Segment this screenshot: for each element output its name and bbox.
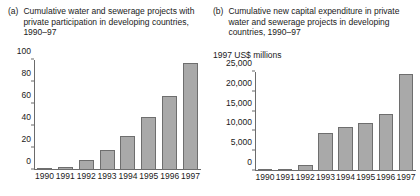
panel-a-bar-1992 — [79, 160, 94, 170]
panel-a-title-block: (a) Cumulative water and sewerage projec… — [8, 6, 204, 38]
panel-b-bar-slot — [255, 72, 275, 171]
panel-b-bar-slot — [396, 72, 416, 171]
panel-b-bar-1991 — [278, 169, 292, 171]
panel-a-bar-slot — [97, 60, 118, 170]
panel-a-bar-slot — [180, 60, 201, 170]
panel-b-plot-area: 05,00010,00015,00020,00025,000 — [255, 72, 416, 171]
panel-a-x-tick-label: 1994 — [118, 171, 139, 182]
panel-a-bar-1997 — [183, 63, 198, 170]
panel-a-bar-1996 — [162, 96, 177, 170]
panel-b-bar-1992 — [298, 165, 312, 171]
panel-a-bar-slot — [118, 60, 139, 170]
panel-a-y-tick-label: 20 — [22, 135, 31, 144]
panel-b-y-tick-label: 25,000 — [226, 59, 252, 68]
panel-a-x-tick-labels: 19901991199219931994199519961997 — [34, 171, 201, 182]
panel-a-bar-slot — [55, 60, 76, 170]
panel-a-bar-1995 — [141, 117, 156, 170]
panel-a: (a) Cumulative water and sewerage projec… — [0, 0, 210, 196]
panel-b-title-block: (b) Cumulative new capital expenditure i… — [213, 6, 418, 38]
panel-b-bar-1997 — [399, 74, 413, 171]
panel-b-title: Cumulative new capital expenditure in pr… — [228, 6, 418, 38]
panel-b-bar-1994 — [338, 127, 352, 171]
panel-a-plot-area: 020406080100 — [34, 60, 201, 170]
panel-b-bar-slot — [356, 72, 376, 171]
panel-b-bar-slot — [295, 72, 315, 171]
panel-a-bar-slot — [76, 60, 97, 170]
panel-b-y-tick-label: 20,000 — [226, 78, 252, 87]
panel-b-bar-slot — [315, 72, 335, 171]
panel-a-bar-slot — [34, 60, 55, 170]
panel-b-tag: (b) — [213, 6, 223, 38]
panel-a-title: Cumulative water and sewerage projects w… — [23, 6, 204, 38]
panel-a-bar-slot — [138, 60, 159, 170]
panel-b-x-tick-label: 1990 — [255, 172, 275, 183]
panel-b-x-tick-label: 1997 — [396, 172, 416, 183]
panel-a-bar-1990 — [37, 168, 52, 170]
panel-b-bar-slot — [275, 72, 295, 171]
panel-b-y-tick-label: 15,000 — [226, 98, 252, 107]
panel-b-x-tick-label: 1991 — [275, 172, 295, 183]
panel-a-x-tick-label: 1997 — [180, 171, 201, 182]
panel-b-bar-1993 — [318, 133, 332, 171]
panel-b-x-tick-label: 1995 — [356, 172, 376, 183]
panel-a-y-tick-label: 60 — [22, 91, 31, 100]
panel-a-y-tick-label: 40 — [22, 113, 31, 122]
panel-b-bar-1990 — [258, 169, 272, 171]
panel-a-x-tick-label: 1992 — [76, 171, 97, 182]
panel-b-y-tick-label: 0 — [247, 158, 252, 167]
panel-b-x-tick-labels: 19901991199219931994199519961997 — [255, 172, 416, 183]
panel-b-x-tick-label: 1993 — [315, 172, 335, 183]
panel-b: (b) Cumulative new capital expenditure i… — [210, 0, 420, 196]
panel-b-x-tick-label: 1996 — [376, 172, 396, 183]
panel-a-y-tick-label: 100 — [17, 47, 31, 56]
panel-b-bar-1995 — [358, 123, 372, 171]
panel-a-bar-1991 — [58, 167, 73, 170]
panel-b-x-tick-label: 1994 — [336, 172, 356, 183]
panel-a-x-tick-label: 1996 — [159, 171, 180, 182]
panel-b-bars — [255, 72, 416, 171]
panel-a-x-tick-label: 1993 — [97, 171, 118, 182]
panel-a-x-tick-label: 1991 — [55, 171, 76, 182]
panel-a-bar-slot — [159, 60, 180, 170]
panel-a-tag: (a) — [8, 6, 18, 38]
panel-b-y-tick-label: 5,000 — [231, 138, 252, 147]
panel-a-bar-1994 — [120, 136, 135, 170]
panel-b-y-tick-label: 10,000 — [226, 118, 252, 127]
panel-b-x-tick-label: 1992 — [295, 172, 315, 183]
panel-b-bar-slot — [376, 72, 396, 171]
panel-b-bar-1996 — [379, 114, 393, 171]
figure-two-panel-bar-charts: (a) Cumulative water and sewerage projec… — [0, 0, 420, 196]
panel-a-y-tick-label: 80 — [22, 69, 31, 78]
panel-a-x-tick-label: 1995 — [138, 171, 159, 182]
panel-a-y-tick-label: 0 — [26, 157, 31, 166]
panel-a-x-tick-label: 1990 — [34, 171, 55, 182]
panel-a-bar-1993 — [100, 150, 115, 170]
panel-b-bar-slot — [336, 72, 356, 171]
panel-a-bars — [34, 60, 201, 170]
